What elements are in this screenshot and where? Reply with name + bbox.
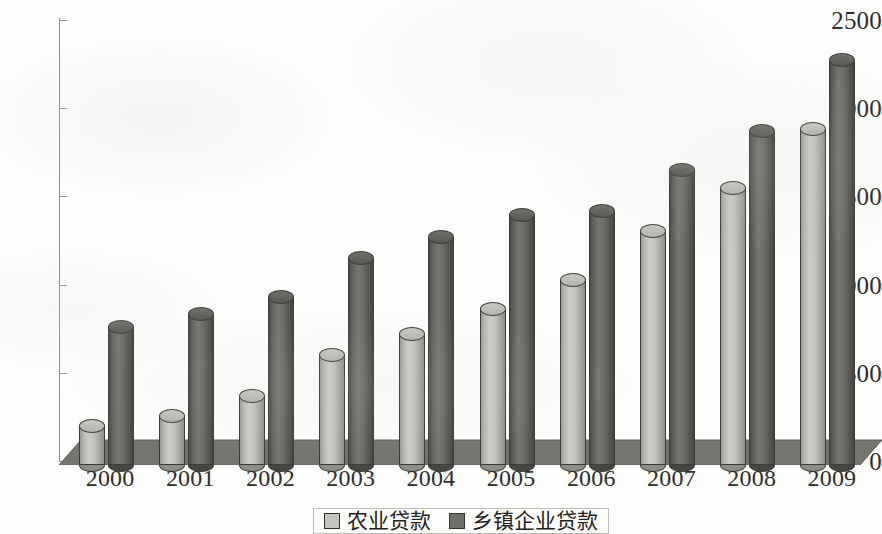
bar-2001-series0 (159, 409, 185, 465)
bar-2002-series0 (239, 389, 265, 465)
bar-2003-series1 (348, 251, 374, 465)
bar-2009-series1 (829, 53, 855, 465)
bar-body (749, 131, 775, 465)
bar-body (720, 188, 746, 465)
bar-top-ellipse (589, 204, 615, 218)
bar-2002-series1 (268, 290, 294, 465)
chart-screenshot: 05001000150020002500 2000200120022003200… (0, 0, 882, 534)
bar-top-ellipse (319, 348, 345, 362)
x-tick-label-2003: 2003 (306, 466, 396, 490)
bar-2008-series0 (720, 181, 746, 465)
bar-top-ellipse (560, 273, 586, 287)
x-tick-label-2004: 2004 (386, 466, 476, 490)
x-tick-label-2008: 2008 (707, 466, 797, 490)
bar-2003-series0 (319, 348, 345, 465)
bar-2007-series1 (669, 163, 695, 465)
y-tick-mark (59, 285, 67, 286)
bar-2001-series1 (188, 307, 214, 465)
bar-2005-series1 (509, 208, 535, 465)
legend-entry-1: 乡镇企业贷款 (449, 511, 598, 532)
bar-top-ellipse (509, 208, 535, 222)
bar-body (428, 237, 454, 465)
bar-body (509, 215, 535, 465)
bar-body (480, 309, 506, 465)
bar-top-ellipse (79, 419, 105, 433)
bar-body (319, 355, 345, 465)
bar-top-ellipse (480, 302, 506, 316)
legend-label: 乡镇企业贷款 (472, 511, 598, 532)
x-tick-label-2005: 2005 (466, 466, 556, 490)
legend-swatch-icon (449, 513, 465, 529)
bar-2009-series0 (800, 122, 826, 465)
bar-body (669, 170, 695, 465)
y-tick-mark (59, 108, 67, 109)
bar-body (640, 231, 666, 465)
bar-body (239, 396, 265, 465)
bar-body (348, 258, 374, 465)
bar-2008-series1 (749, 124, 775, 465)
x-tick-label-2009: 2009 (787, 466, 877, 490)
bar-2004-series1 (428, 230, 454, 465)
legend-label: 农业贷款 (347, 511, 431, 532)
x-tick-label-2001: 2001 (145, 466, 235, 490)
bar-body (108, 327, 134, 465)
bar-body (188, 314, 214, 465)
y-tick-label: 2500 (830, 8, 882, 33)
y-axis-line (59, 18, 60, 462)
bar-2005-series0 (480, 302, 506, 465)
x-tick-label-2006: 2006 (546, 466, 636, 490)
x-tick-label-2000: 2000 (65, 466, 155, 490)
chart-legend: 农业贷款乡镇企业贷款 (313, 508, 609, 534)
bar-2006-series0 (560, 273, 586, 465)
bar-body (159, 416, 185, 465)
x-tick-label-2007: 2007 (627, 466, 717, 490)
bar-top-ellipse (159, 409, 185, 423)
bar-2007-series0 (640, 224, 666, 465)
bar-body (268, 297, 294, 465)
plot-area: 05001000150020002500 2000200120022003200… (0, 0, 882, 534)
bar-body (589, 211, 615, 465)
bar-2000-series0 (79, 419, 105, 465)
bar-top-ellipse (749, 124, 775, 138)
bar-body (800, 129, 826, 465)
bar-top-ellipse (348, 251, 374, 265)
bar-body (560, 280, 586, 465)
bar-2004-series0 (399, 327, 425, 465)
y-tick-mark (59, 373, 67, 374)
x-tick-label-2002: 2002 (226, 466, 316, 490)
bar-top-ellipse (188, 307, 214, 321)
y-tick-mark (59, 196, 67, 197)
legend-swatch-icon (324, 513, 340, 529)
bar-top-ellipse (669, 163, 695, 177)
legend-entry-0: 农业贷款 (324, 511, 431, 532)
bar-2000-series1 (108, 320, 134, 465)
bar-body (399, 334, 425, 465)
bar-2006-series1 (589, 204, 615, 465)
bar-body (829, 60, 855, 465)
y-tick-mark (59, 20, 67, 21)
